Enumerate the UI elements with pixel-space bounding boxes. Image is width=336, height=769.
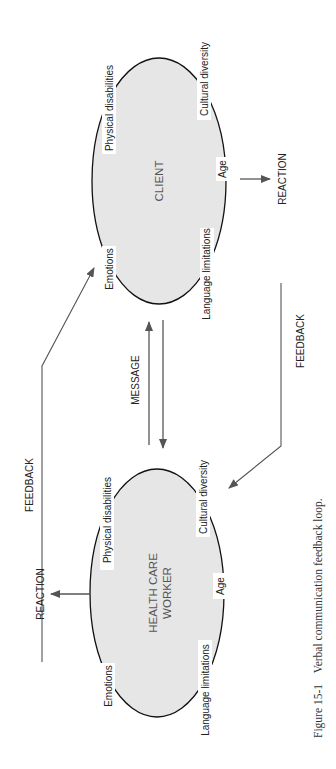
- client-factor-cultural: Cultural diversity: [199, 42, 210, 116]
- client-factor-age: Age: [217, 160, 228, 178]
- worker-factor-physical: Physical disabilities: [102, 477, 113, 563]
- worker-node: HEALTH CARE WORKER Physical disabilities…: [90, 455, 227, 740]
- message-label: MESSAGE: [130, 355, 141, 405]
- client-node: CLIENT Physical disabilities Cultural di…: [92, 38, 230, 320]
- worker-factor-age: Age: [215, 577, 226, 595]
- client-factor-emotions: Emotions: [104, 248, 115, 290]
- client-reaction-label: REACTION: [277, 153, 288, 205]
- caption-text: Verbal communication feedback loop.: [312, 498, 325, 673]
- worker-reaction-arrow: REACTION: [35, 568, 90, 620]
- worker-factor-cultural: Cultural diversity: [198, 460, 209, 534]
- feedback-right-arrow: FEEDBACK: [229, 283, 306, 488]
- feedback-left-label: FEEDBACK: [24, 458, 35, 512]
- client-reaction-arrow: REACTION: [240, 153, 288, 205]
- worker-factor-language: Language limitations: [200, 644, 211, 736]
- client-title: CLIENT: [153, 161, 165, 202]
- worker-factor-emotions: Emotions: [103, 665, 114, 707]
- client-factor-physical: Physical disabilities: [104, 65, 115, 151]
- worker-reaction-label: REACTION: [35, 568, 46, 620]
- worker-title-line1: HEALTH CARE: [147, 553, 159, 633]
- caption-number: Figure 15-1: [312, 684, 325, 738]
- figure-caption: Figure 15-1 Verbal communication feedbac…: [312, 498, 325, 738]
- worker-title-line2: WORKER: [161, 567, 173, 619]
- feedback-right-label: FEEDBACK: [295, 314, 306, 368]
- feedback-loop-diagram: CLIENT Physical disabilities Cultural di…: [0, 0, 336, 769]
- message-arrows: MESSAGE: [130, 320, 163, 448]
- client-factor-language: Language limitations: [201, 228, 212, 320]
- svg-text:Figure 15-1 Verbal commu: Figure 15-1 Verbal communication feedbac…: [312, 498, 325, 738]
